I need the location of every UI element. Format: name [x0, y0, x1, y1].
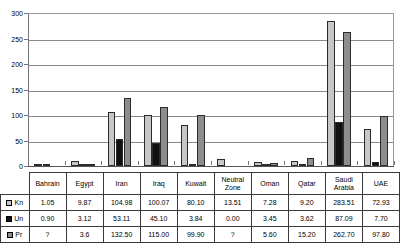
- table-header-cell: Qatar: [288, 173, 325, 195]
- table-cell-un: 0.90: [29, 211, 66, 227]
- y-tick-label: 300: [11, 10, 23, 17]
- table-cell-kn: 1.05: [29, 195, 66, 211]
- bar-group: [174, 13, 211, 166]
- table-cell-un: 45.10: [140, 211, 177, 227]
- bar-un: [152, 143, 160, 166]
- table-cell-kn: 283.51: [325, 195, 362, 211]
- table-cell-pr: 97.80: [362, 227, 399, 243]
- table-cell-pr: 15.20: [288, 227, 325, 243]
- bar-group: [357, 13, 394, 166]
- x-tick-mark: [284, 161, 285, 165]
- table-cell-pr: ?: [214, 227, 251, 243]
- table-cell-pr: 5.60: [251, 227, 288, 243]
- bars-layer: [28, 13, 394, 166]
- bar-kn: [144, 115, 152, 166]
- legend-label-un: Un: [14, 215, 23, 222]
- table-header-cell: Oman: [251, 173, 288, 195]
- x-tick-mark: [248, 161, 249, 165]
- y-tick-label: 50: [15, 137, 23, 144]
- y-tick-label: 150: [11, 86, 23, 93]
- table-header-cell: Iraq: [140, 173, 177, 195]
- table-row-pr: Pr ?3.6132.50115.0099.90?5.6015.20262.70…: [1, 227, 400, 243]
- table-header-cell: Iran: [103, 173, 140, 195]
- bar-un: [116, 139, 124, 166]
- bar-pr: [380, 116, 388, 166]
- table-cell-kn: 104.98: [103, 195, 140, 211]
- data-table: BahrainEgyptIranIraqKuwaitNeutral ZoneOm…: [0, 172, 400, 243]
- bar-kn: [217, 159, 225, 166]
- bar-chart: 050100150200250300: [0, 0, 400, 172]
- table-cell-kn: 13.51: [214, 195, 251, 211]
- table-corner-cell: [1, 173, 30, 195]
- legend-item-pr: Pr: [1, 227, 30, 243]
- bar-pr: [160, 107, 168, 166]
- table-cell-pr: 99.90: [177, 227, 214, 243]
- bar-group: [65, 13, 102, 166]
- y-tick-mark: [24, 39, 28, 40]
- y-tick-label: 200: [11, 61, 23, 68]
- y-tick-mark: [24, 13, 28, 14]
- y-tick-mark: [24, 141, 28, 142]
- bar-group: [101, 13, 138, 166]
- legend-item-kn: Kn: [1, 195, 30, 211]
- table-cell-kn: 100.07: [140, 195, 177, 211]
- table-cell-kn: 80.10: [177, 195, 214, 211]
- x-tick-mark: [394, 161, 395, 165]
- table-cell-un: 53.11: [103, 211, 140, 227]
- black-swatch-icon: [6, 216, 12, 222]
- table-cell-un: 87.09: [325, 211, 362, 227]
- x-tick-mark: [138, 161, 139, 165]
- y-tick-mark: [24, 90, 28, 91]
- bar-group: [248, 13, 285, 166]
- bar-kn: [108, 112, 116, 166]
- x-tick-mark: [28, 161, 29, 165]
- bar-pr: [197, 115, 205, 166]
- table-cell-un: 3.84: [177, 211, 214, 227]
- table-cell-pr: ?: [29, 227, 66, 243]
- bar-group: [138, 13, 175, 166]
- bar-group: [284, 13, 321, 166]
- x-tick-mark: [321, 161, 322, 165]
- x-tick-mark: [211, 161, 212, 165]
- bar-group: [211, 13, 248, 166]
- legend-label-kn: Kn: [14, 199, 23, 206]
- y-tick-mark: [24, 115, 28, 116]
- legend-label-pr: Pr: [15, 231, 22, 238]
- table-header-row: BahrainEgyptIranIraqKuwaitNeutral ZoneOm…: [1, 173, 400, 195]
- table-cell-kn: 9.87: [66, 195, 103, 211]
- table-cell-pr: 262.70: [325, 227, 362, 243]
- table-cell-un: 3.45: [251, 211, 288, 227]
- table-cell-pr: 115.00: [140, 227, 177, 243]
- bar-kn: [181, 125, 189, 166]
- x-axis-baseline: [28, 166, 394, 167]
- y-tick-mark: [24, 166, 28, 167]
- table-cell-un: 7.70: [362, 211, 399, 227]
- table-cell-un: 0.00: [214, 211, 251, 227]
- table-header-cell: Saudi Arabia: [325, 173, 362, 195]
- medium-gray-swatch-icon: [7, 232, 13, 238]
- table-cell-un: 3.62: [288, 211, 325, 227]
- bar-group: [28, 13, 65, 166]
- x-tick-mark: [65, 161, 66, 165]
- y-tick-mark: [24, 64, 28, 65]
- table-row-un: Un 0.903.1253.1145.103.840.003.453.6287.…: [1, 211, 400, 227]
- x-tick-mark: [357, 161, 358, 165]
- bar-pr: [307, 158, 315, 166]
- table-row-kn: Kn 1.059.87104.98100.0780.1013.517.289.2…: [1, 195, 400, 211]
- bar-un: [335, 122, 343, 166]
- x-tick-mark: [174, 161, 175, 165]
- table-cell-kn: 9.20: [288, 195, 325, 211]
- y-tick-label: 0: [19, 163, 23, 170]
- table-header-cell: Kuwait: [177, 173, 214, 195]
- table-cell-kn: 7.28: [251, 195, 288, 211]
- table-header-cell: Neutral Zone: [214, 173, 251, 195]
- table-cell-kn: 72.93: [362, 195, 399, 211]
- bar-pr: [343, 32, 351, 166]
- y-axis: 050100150200250300: [0, 0, 28, 172]
- bar-kn: [327, 21, 335, 166]
- y-tick-label: 100: [11, 112, 23, 119]
- legend-item-un: Un: [1, 211, 30, 227]
- table-cell-un: 3.12: [66, 211, 103, 227]
- bar-pr: [124, 98, 132, 166]
